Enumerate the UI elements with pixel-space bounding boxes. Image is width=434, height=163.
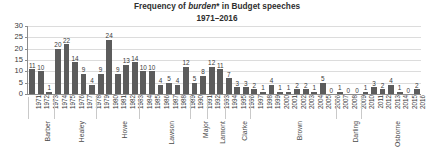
chancellor-label: Darling — [352, 121, 360, 161]
y-axis-tick-mark — [25, 60, 27, 61]
bar[interactable] — [46, 92, 52, 94]
y-axis-tick-mark — [25, 26, 27, 27]
bar[interactable] — [260, 92, 266, 94]
bar[interactable] — [371, 87, 377, 94]
bar[interactable] — [149, 71, 155, 94]
chancellor-group-divider — [190, 97, 191, 119]
bar[interactable] — [269, 85, 275, 94]
y-axis-tick-label: 10 — [15, 67, 23, 75]
chancellor-label: Barber — [44, 121, 52, 161]
bar[interactable] — [64, 44, 70, 94]
bar-value-label: 12 — [182, 59, 189, 66]
bar[interactable] — [166, 83, 172, 94]
bar[interactable] — [158, 85, 164, 94]
bar[interactable] — [397, 92, 403, 94]
bar[interactable] — [209, 67, 215, 94]
bar[interactable] — [38, 71, 44, 94]
bar-value-label: 3 — [236, 80, 240, 87]
x-axis-tick-label: 2014 — [402, 95, 409, 121]
bar-slot: 13 — [122, 26, 131, 94]
x-axis-tick-label: 2005 — [325, 95, 332, 121]
chancellor-group-divider — [207, 97, 208, 119]
chancellor-label: Brown — [296, 121, 304, 161]
bar[interactable] — [414, 89, 420, 94]
bar[interactable] — [192, 83, 198, 94]
x-axis-tick-label: 1994 — [231, 95, 238, 121]
bar-value-label: 2 — [304, 82, 308, 89]
bar[interactable] — [123, 65, 129, 94]
bar-value-label: 3 — [372, 80, 376, 87]
bar-slot: 1 — [310, 26, 319, 94]
bar-slot: 4 — [267, 26, 276, 94]
x-axis-tick-label: 1995 — [240, 95, 247, 121]
bar[interactable] — [106, 40, 112, 94]
bar-value-label: 10 — [148, 64, 155, 71]
bar-series: 1110120221494924913141010454125812117332… — [28, 26, 421, 94]
bar[interactable] — [337, 92, 343, 94]
chancellor-group-divider — [336, 97, 337, 119]
bar[interactable] — [217, 69, 223, 94]
bar-value-label: 5 — [193, 75, 197, 82]
bar-slot: 0 — [344, 26, 353, 94]
bar-slot: 20 — [54, 26, 63, 94]
bar-value-label: 9 — [82, 66, 86, 73]
bar[interactable] — [175, 85, 181, 94]
x-axis-tick-label: 1999 — [274, 95, 281, 121]
x-axis-tick-label: 2012 — [385, 95, 392, 121]
bar[interactable] — [388, 85, 394, 94]
chancellor-label: Major — [202, 121, 210, 161]
chancellor-label: Lamont — [219, 121, 227, 161]
bar-slot: 1 — [45, 26, 54, 94]
y-axis-tick-mark — [25, 83, 27, 84]
bar[interactable] — [294, 89, 300, 94]
y-axis-tick-label: 0 — [19, 90, 23, 98]
bar[interactable] — [243, 87, 249, 94]
x-axis-tick-label: 1990 — [197, 95, 204, 121]
y-axis-tick-label: 25 — [15, 33, 23, 41]
x-axis-tick-label: 1986 — [163, 95, 170, 121]
bar-slot: 11 — [216, 26, 225, 94]
bar[interactable] — [115, 74, 121, 94]
y-axis-tick-mark — [25, 94, 27, 95]
bar-value-label: 0 — [406, 87, 410, 94]
bar-slot: 9 — [113, 26, 122, 94]
bar[interactable] — [251, 89, 257, 94]
bar-value-label: 9 — [116, 66, 120, 73]
bar-slot: 4 — [387, 26, 396, 94]
bar[interactable] — [55, 49, 61, 94]
bar[interactable] — [29, 69, 35, 94]
bar-value-label: 10 — [37, 64, 44, 71]
x-axis-tick-label: 2003 — [308, 95, 315, 121]
bar[interactable] — [226, 78, 232, 94]
bar[interactable] — [303, 89, 309, 94]
bar[interactable] — [234, 87, 240, 94]
bar-slot: 3 — [233, 26, 242, 94]
bar[interactable] — [320, 83, 326, 94]
bar-slot: 4 — [173, 26, 182, 94]
bar[interactable] — [277, 92, 283, 94]
bar[interactable] — [72, 62, 78, 94]
y-axis-tick-mark — [25, 71, 27, 72]
bar[interactable] — [363, 92, 369, 94]
bar[interactable] — [183, 67, 189, 94]
x-axis-tick-label: 2016 — [419, 95, 426, 121]
chart-title-emphasis: burden — [188, 2, 216, 11]
x-axis-tick-label: 1976 — [78, 95, 85, 121]
bar[interactable] — [286, 92, 292, 94]
bar-value-label: 1 — [312, 84, 316, 91]
bar[interactable] — [380, 89, 386, 94]
bar[interactable] — [81, 74, 87, 94]
x-axis-tick-label: 1971 — [35, 95, 42, 121]
bar[interactable] — [200, 76, 206, 94]
chancellor-label: Clarke — [241, 121, 249, 161]
bar[interactable] — [311, 92, 317, 94]
bar[interactable] — [98, 74, 104, 94]
chancellor-group-divider — [28, 97, 29, 119]
x-axis-tick-label: 1972 — [43, 95, 50, 121]
bar[interactable] — [140, 71, 146, 94]
bar[interactable] — [132, 62, 138, 94]
bar[interactable] — [89, 85, 95, 94]
bar-value-label: 24 — [106, 32, 113, 39]
bar-slot: 14 — [71, 26, 80, 94]
bar-slot: 5 — [165, 26, 174, 94]
